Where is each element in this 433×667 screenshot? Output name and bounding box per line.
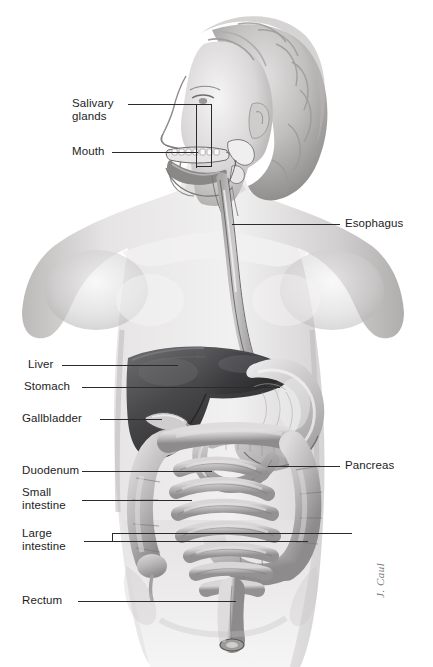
leader-salivary-glands-foot [196, 166, 212, 167]
leader-duodenum [82, 471, 212, 472]
rectum-organ [220, 586, 244, 651]
leader-salivary-glands-drop2 [196, 104, 197, 168]
leader-gallbladder [100, 419, 162, 420]
leader-pancreas [268, 466, 340, 467]
label-esophagus: Esophagus [345, 217, 403, 230]
leader-small-intestine [82, 500, 192, 501]
leader-stomach [82, 387, 280, 388]
liver-organ [127, 346, 290, 459]
leader-salivary-glands [128, 104, 212, 105]
leader-rectum [78, 601, 236, 602]
esophagus-organ [220, 178, 258, 372]
label-mouth: Mouth [72, 145, 104, 158]
anatomy-illustration [0, 0, 433, 667]
label-salivary-glands: Salivary glands [72, 97, 114, 123]
leader-salivary-glands-drop [211, 104, 212, 166]
label-stomach: Stomach [24, 380, 70, 393]
leader-large-intestine-top [112, 533, 352, 534]
label-small-intestine: Small intestine [22, 486, 66, 512]
label-large-intestine: Large intestine [22, 527, 66, 553]
label-rectum: Rectum [22, 594, 62, 607]
leader-mouth [112, 152, 198, 153]
large-intestine-organ [132, 430, 322, 600]
label-duodenum: Duodenum [22, 464, 79, 477]
leader-large-intestine [84, 541, 112, 542]
label-pancreas: Pancreas [345, 459, 394, 472]
head-profile [161, 16, 327, 218]
leader-liver [62, 365, 178, 366]
stomach-organ [235, 359, 325, 472]
label-liver: Liver [28, 358, 53, 371]
duodenum-organ [199, 438, 272, 486]
leader-esophagus [232, 224, 340, 225]
digestive-system-figure: Salivary glands Mouth Esophagus Liver St… [0, 0, 433, 667]
pancreas-organ [212, 435, 304, 466]
label-gallbladder: Gallbladder [22, 412, 82, 425]
artist-signature: J. Caul [374, 563, 386, 598]
small-intestine-organ [176, 462, 274, 590]
leader-large-intestine-bottom [112, 541, 308, 542]
